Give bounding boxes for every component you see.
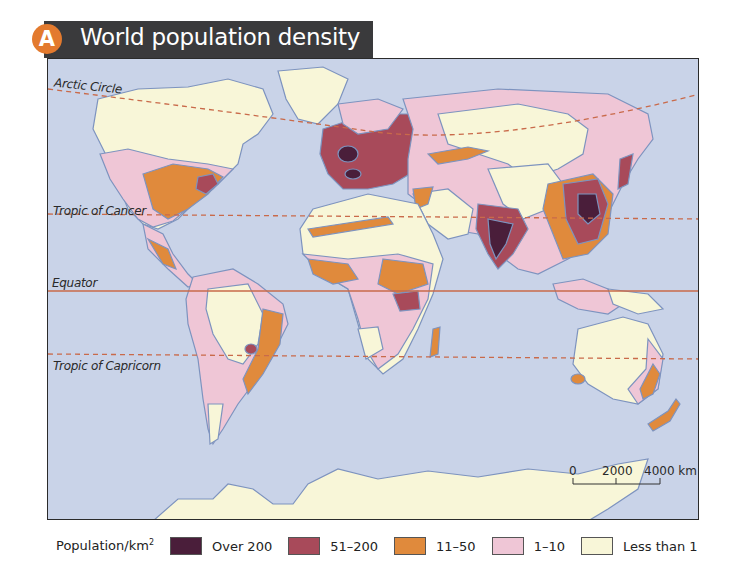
- na-density-11-50: [143, 164, 223, 219]
- sa-dense-spot: [245, 344, 257, 354]
- scale-tick-2000: 2000: [602, 464, 633, 478]
- new-zealand: [648, 399, 680, 431]
- madagascar: [430, 327, 440, 357]
- map-canvas: [48, 59, 699, 520]
- europe-over-200-2: [345, 169, 361, 179]
- na-east-51-200: [196, 174, 218, 194]
- legend-item-1-10: 1–10: [492, 537, 565, 555]
- section-badge: A: [32, 24, 62, 54]
- legend-item-less-than-1: Less than 1: [581, 537, 698, 555]
- equator-label: Equator: [52, 276, 97, 290]
- legend-label: Less than 1: [623, 539, 698, 554]
- new-guinea: [608, 289, 663, 314]
- map-title: World population density: [80, 24, 360, 50]
- legend-item-11-50: 11–50: [394, 537, 476, 555]
- legend-label: 11–50: [436, 539, 476, 554]
- legend-item-51-200: 51–200: [288, 537, 378, 555]
- scale-tick-4000: 4000 km: [644, 464, 697, 478]
- legend-swatch-11-50: [394, 537, 426, 555]
- legend-label: 1–10: [534, 539, 565, 554]
- legend-swatch-over-200: [170, 537, 202, 555]
- legend-label: Over 200: [212, 539, 272, 554]
- world-map: Arctic Circle Tropic of Cancer Equator T…: [47, 58, 699, 520]
- scale-tick-0: 0: [569, 464, 577, 478]
- legend-swatch-1-10: [492, 537, 524, 555]
- tropic-of-cancer-label: Tropic of Cancer: [53, 204, 146, 218]
- greenland: [278, 67, 348, 124]
- perth-11-50: [571, 374, 585, 384]
- legend-title: Population/km2: [56, 538, 154, 553]
- tropic-of-capricorn-label: Tropic of Capricorn: [53, 359, 161, 373]
- legend-swatch-less-than-1: [581, 537, 613, 555]
- europe-over-200: [338, 146, 358, 162]
- legend-label: 51–200: [330, 539, 378, 554]
- legend-swatch-51-200: [288, 537, 320, 555]
- legend: Population/km2 Over 200 51–200 11–50 1–1…: [56, 536, 714, 556]
- legend-item-over-200: Over 200: [170, 537, 272, 555]
